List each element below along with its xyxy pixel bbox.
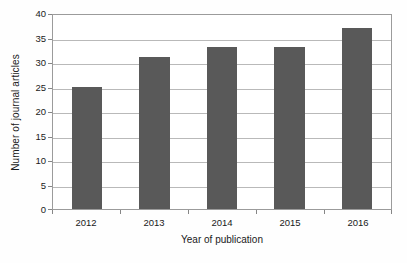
y-axis-tick-label: 0	[24, 205, 46, 215]
y-axis-tick-labels: 0510152025303540	[24, 14, 46, 210]
x-axis-tick-mark	[256, 210, 257, 214]
bars-layer	[53, 15, 391, 209]
x-axis-tick-mark	[324, 210, 325, 214]
bar-chart-figure: Number of journal articles 0510152025303…	[0, 0, 407, 263]
bar[interactable]	[274, 47, 304, 209]
bar[interactable]	[207, 47, 237, 209]
y-axis-tick-label: 40	[24, 9, 46, 19]
x-axis-tick-label: 2016	[324, 216, 392, 230]
bar-slot	[323, 15, 391, 209]
y-axis-title-label: Number of journal articles	[10, 54, 21, 171]
y-axis-tick-label: 35	[24, 34, 46, 44]
y-axis-tick-label: 10	[24, 156, 46, 166]
plot-area	[52, 14, 392, 210]
x-axis-tick-mark	[52, 210, 53, 214]
bar-slot	[53, 15, 121, 209]
x-axis-tick-mark	[120, 210, 121, 214]
bar-slot	[121, 15, 189, 209]
x-axis-title: Year of publication	[52, 234, 392, 246]
y-axis-tick-label: 25	[24, 83, 46, 93]
bar[interactable]	[342, 28, 372, 209]
y-axis-tick-label: 15	[24, 132, 46, 142]
x-axis-tick-label: 2014	[188, 216, 256, 230]
x-axis-tick-labels: 20122013201420152016	[52, 216, 392, 230]
x-axis-tick-label: 2013	[120, 216, 188, 230]
x-axis-tick-label: 2012	[52, 216, 120, 230]
x-axis-tick-label: 2015	[256, 216, 324, 230]
bar-slot	[188, 15, 256, 209]
x-axis-tick-marks	[52, 210, 392, 214]
y-axis-title: Number of journal articles	[6, 14, 24, 210]
y-axis-tick-label: 20	[24, 107, 46, 117]
x-axis-tick-mark	[188, 210, 189, 214]
bar-slot	[256, 15, 324, 209]
y-axis-tick-label: 5	[24, 181, 46, 191]
y-axis-tick-label: 30	[24, 58, 46, 68]
bar[interactable]	[139, 57, 169, 209]
x-axis-tick-mark	[391, 210, 392, 214]
bar[interactable]	[72, 87, 102, 210]
